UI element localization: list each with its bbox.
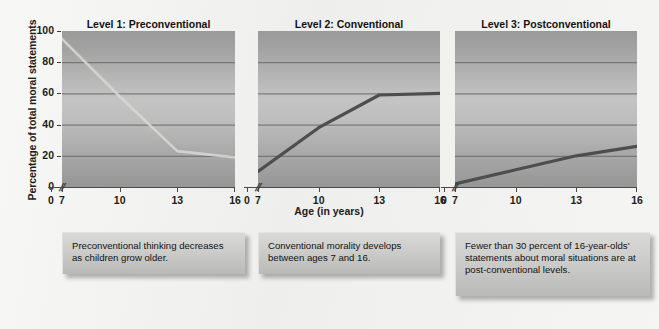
x-tick-mark-16 bbox=[636, 187, 637, 192]
x-tick-mark-16 bbox=[439, 187, 440, 192]
panel-title-2: Level 2: Conventional bbox=[258, 18, 440, 30]
x-tick-mark-10 bbox=[516, 187, 517, 192]
y-tick-mark-20 bbox=[57, 156, 61, 157]
x-axis-title: Age (in years) bbox=[269, 205, 389, 217]
x-tick-label-7: 7 bbox=[50, 194, 74, 206]
y-tick-label-80: 80 bbox=[28, 55, 54, 67]
caption-box-3: Fewer than 30 percent of 16-year-olds' s… bbox=[455, 232, 650, 296]
y-tick-label-20: 20 bbox=[28, 149, 54, 161]
x-tick-mark-16 bbox=[234, 187, 235, 192]
x-tick-mark-10 bbox=[319, 187, 320, 192]
y-tick-mark-80 bbox=[57, 62, 61, 63]
x-tick-mark-0 bbox=[51, 187, 52, 192]
y-tick-label-60: 60 bbox=[28, 86, 54, 98]
x-tick-label-13: 13 bbox=[165, 194, 189, 206]
x-tick-mark-10 bbox=[120, 187, 121, 192]
y-tick-mark-40 bbox=[57, 125, 61, 126]
plot-area-1 bbox=[62, 31, 235, 187]
caption-box-2: Conventional morality develops between a… bbox=[258, 232, 440, 274]
x-tick-label-10: 10 bbox=[108, 194, 132, 206]
plot-area-2 bbox=[258, 31, 440, 187]
x-axis-line-3 bbox=[455, 187, 637, 188]
x-tick-label-10: 10 bbox=[504, 194, 528, 206]
figure-moral-reasoning-by-age: Percentage of total moral statements 100… bbox=[0, 0, 659, 329]
x-tick-label-7: 7 bbox=[443, 194, 467, 206]
x-tick-label-7: 7 bbox=[246, 194, 270, 206]
panel-3: Level 3: Postconventional07101316// bbox=[455, 18, 637, 238]
panel-title-1: Level 1: Preconventional bbox=[62, 18, 235, 30]
y-axis-title: Percentage of total moral statements bbox=[26, 15, 38, 205]
y-tick-mark-100 bbox=[57, 31, 61, 32]
panel-title-3: Level 3: Postconventional bbox=[455, 18, 637, 30]
y-tick-mark-60 bbox=[57, 93, 61, 94]
caption-box-1: Preconventional thinking decreases as ch… bbox=[62, 232, 245, 274]
y-tick-label-100: 100 bbox=[28, 24, 54, 36]
x-tick-label-13: 13 bbox=[564, 194, 588, 206]
plot-area-3 bbox=[455, 31, 637, 187]
x-axis-line-2 bbox=[258, 187, 440, 188]
y-tick-label-40: 40 bbox=[28, 118, 54, 130]
x-tick-mark-13 bbox=[576, 187, 577, 192]
x-tick-mark-0 bbox=[247, 187, 248, 192]
x-tick-mark-13 bbox=[177, 187, 178, 192]
x-axis-line-1 bbox=[62, 187, 235, 188]
x-tick-label-16: 16 bbox=[625, 194, 649, 206]
x-tick-mark-0 bbox=[444, 187, 445, 192]
x-tick-mark-13 bbox=[379, 187, 380, 192]
panel-1: Level 1: Preconventional07101316// bbox=[62, 18, 235, 238]
